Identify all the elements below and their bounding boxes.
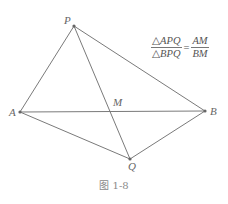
ratio-formula: △APQ △BPQ = AM BM <box>151 35 209 60</box>
equals-sign: = <box>184 42 190 53</box>
left-denominator: △BPQ <box>151 48 182 60</box>
length-ratio-fraction: AM BM <box>191 35 208 60</box>
right-numerator: AM <box>191 35 208 47</box>
geometry-figure: P A B Q M △APQ △BPQ = AM BM 图 1-8 <box>0 0 228 204</box>
label-P: P <box>64 15 71 26</box>
left-numerator: △APQ <box>151 35 182 47</box>
point-P <box>72 24 75 27</box>
point-B <box>203 109 206 112</box>
label-A: A <box>9 107 16 118</box>
label-Q: Q <box>128 161 136 172</box>
point-A <box>18 110 21 113</box>
label-B: B <box>210 106 217 117</box>
figure-caption: 图 1-8 <box>0 177 228 192</box>
label-M: M <box>113 97 122 108</box>
segment-PA <box>20 26 74 112</box>
segment-BQ <box>130 111 205 159</box>
right-denominator: BM <box>191 48 208 60</box>
segment-AB <box>20 111 205 112</box>
area-ratio-fraction: △APQ △BPQ <box>151 35 182 60</box>
